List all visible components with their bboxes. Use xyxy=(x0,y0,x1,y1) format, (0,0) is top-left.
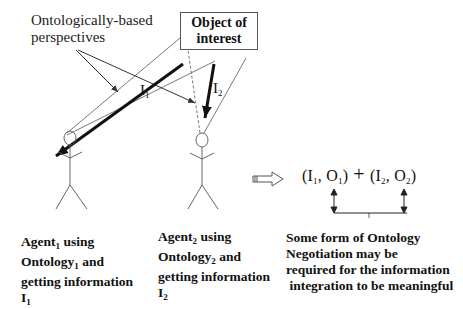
implies-arrow-icon xyxy=(253,172,283,186)
object-of-interest-box: Object of interest xyxy=(180,12,258,50)
agent2-description: Agent2 using Ontology2 and getting infor… xyxy=(158,229,270,305)
negotiation-note: Some form of Ontology Negotiation may be… xyxy=(286,230,453,294)
stick-figure-agent-1-icon xyxy=(56,131,87,209)
i1-label: I1 xyxy=(140,82,150,100)
i2-label: I2 xyxy=(213,80,223,98)
stick-figure-agent-2-icon xyxy=(188,133,218,209)
information-pair-formula: (I1, O1) + (I2, O2) xyxy=(302,163,416,186)
double-headed-arrow-icon xyxy=(331,189,407,218)
ontology-negotiation-diagram: Ontologically-based perspectives Object … xyxy=(0,0,463,309)
perspectives-label: Ontologically-based perspectives xyxy=(31,12,153,46)
perspective-arrows xyxy=(76,50,195,103)
agent1-description: Agent1 using Ontology1 and getting infor… xyxy=(21,234,133,309)
